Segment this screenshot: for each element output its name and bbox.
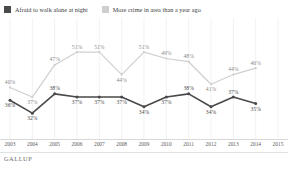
x-tick-2011: 2011 bbox=[183, 140, 194, 148]
legend-swatch-more-crime-icon bbox=[102, 6, 109, 13]
plot-svg: 40%37%47%51%51%44%51%49%48%41%44%46% 36%… bbox=[0, 18, 288, 140]
x-tick-2005: 2005 bbox=[49, 140, 60, 148]
gridlines bbox=[10, 18, 278, 139]
series-afraid-to-walk bbox=[9, 92, 258, 114]
gallup-crime-line-chart: Afraid to walk alone at night More crime… bbox=[0, 0, 288, 171]
x-tick-2007: 2007 bbox=[94, 140, 105, 148]
svg-text:34%: 34% bbox=[139, 109, 150, 115]
svg-text:44%: 44% bbox=[117, 77, 128, 83]
svg-text:37%: 37% bbox=[72, 99, 83, 105]
legend-label-more-crime: More crime in area than a year ago bbox=[113, 6, 201, 13]
svg-text:38%: 38% bbox=[50, 85, 61, 91]
svg-text:38%: 38% bbox=[184, 85, 195, 91]
svg-text:44%: 44% bbox=[228, 66, 239, 72]
legend-label-afraid: Afraid to walk alone at night bbox=[15, 6, 88, 13]
x-tick-2013: 2013 bbox=[228, 140, 239, 148]
svg-text:35%: 35% bbox=[251, 106, 262, 112]
svg-text:47%: 47% bbox=[50, 56, 61, 62]
svg-text:51%: 51% bbox=[94, 44, 105, 50]
chart-legend: Afraid to walk alone at night More crime… bbox=[0, 2, 288, 16]
svg-text:32%: 32% bbox=[27, 115, 38, 121]
svg-text:36%: 36% bbox=[5, 102, 16, 108]
svg-text:37%: 37% bbox=[94, 99, 105, 105]
x-tick-2003: 2003 bbox=[5, 140, 16, 148]
x-tick-2009: 2009 bbox=[139, 140, 150, 148]
plot-area: 40%37%47%51%51%44%51%49%48%41%44%46% 36%… bbox=[0, 18, 288, 140]
svg-text:37%: 37% bbox=[228, 89, 239, 95]
svg-text:48%: 48% bbox=[184, 53, 195, 59]
svg-text:46%: 46% bbox=[251, 60, 262, 66]
x-tick-2015: 2015 bbox=[273, 140, 284, 148]
svg-text:37%: 37% bbox=[161, 99, 172, 105]
svg-text:37%: 37% bbox=[27, 99, 38, 105]
source-gallup: GALLUP bbox=[4, 155, 32, 162]
footer-divider bbox=[0, 152, 288, 153]
svg-text:37%: 37% bbox=[117, 99, 128, 105]
x-tick-2004: 2004 bbox=[27, 140, 38, 148]
svg-text:51%: 51% bbox=[139, 44, 150, 50]
x-tick-2010: 2010 bbox=[161, 140, 172, 148]
legend-item-more-crime[interactable]: More crime in area than a year ago bbox=[102, 6, 201, 13]
svg-text:34%: 34% bbox=[206, 109, 217, 115]
legend-item-afraid-to-walk[interactable]: Afraid to walk alone at night bbox=[4, 6, 88, 13]
x-tick-2014: 2014 bbox=[250, 140, 261, 148]
x-tick-2006: 2006 bbox=[72, 140, 83, 148]
svg-text:51%: 51% bbox=[72, 44, 83, 50]
x-tick-2012: 2012 bbox=[206, 140, 217, 148]
svg-text:49%: 49% bbox=[161, 50, 172, 56]
series-more-crime bbox=[9, 51, 257, 98]
legend-swatch-afraid-icon bbox=[4, 6, 11, 13]
svg-text:40%: 40% bbox=[5, 79, 16, 85]
x-axis-tick-labels: 2003200420052006200720082009201020112012… bbox=[0, 140, 288, 150]
data-labels-more-crime: 40%37%47%51%51%44%51%49%48%41%44%46% bbox=[5, 44, 261, 106]
svg-text:41%: 41% bbox=[206, 86, 217, 92]
x-tick-2008: 2008 bbox=[116, 140, 127, 148]
